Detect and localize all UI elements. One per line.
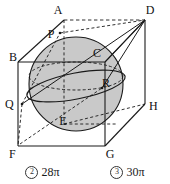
option-2[interactable]: 2 28π <box>25 165 59 180</box>
option-3-marker: 3 <box>110 166 123 179</box>
dot-P <box>59 32 62 35</box>
line-Q-F-hidden <box>18 104 22 146</box>
label-B: B <box>9 50 17 64</box>
label-R: R <box>102 76 110 90</box>
option-3-label: 30π <box>126 165 144 180</box>
label-C: C <box>93 46 101 60</box>
answer-options: 2 28π 3 30π <box>0 160 170 184</box>
line-P-D-hidden <box>60 20 145 33</box>
label-G: G <box>106 147 115 161</box>
option-3[interactable]: 3 30π <box>110 165 144 180</box>
label-Q: Q <box>5 97 14 111</box>
label-H: H <box>149 99 158 113</box>
label-F: F <box>9 147 16 161</box>
dot-Q <box>21 103 24 106</box>
geometry-figure: A D B C H E F G P Q R 2 28π 3 30π <box>0 0 170 184</box>
label-E: E <box>59 114 66 128</box>
option-2-marker: 2 <box>25 166 38 179</box>
option-2-label: 28π <box>41 165 59 180</box>
line-D-C <box>105 20 145 62</box>
label-P: P <box>48 27 55 41</box>
label-D: D <box>146 3 155 17</box>
cube-sphere-diagram: A D B C H E F G P Q R <box>0 0 170 184</box>
label-A: A <box>54 3 63 17</box>
